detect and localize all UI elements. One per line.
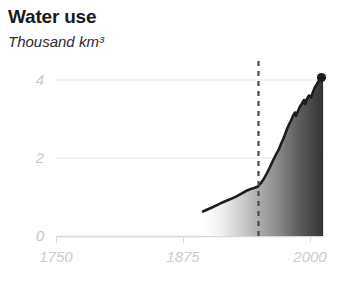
y-tick-label-0: 0: [20, 227, 44, 244]
water-use-chart-figure: Water use Thousand km³: [0, 0, 339, 290]
y-tick-label-2: 2: [20, 149, 44, 166]
x-tick-label-1875: 1875: [153, 248, 213, 265]
x-axis-ticks: [57, 237, 311, 243]
x-tick-label-2000: 2000: [280, 248, 339, 265]
plot-area: [0, 0, 339, 290]
endpoint-marker-dot: [317, 73, 326, 82]
y-tick-label-4: 4: [20, 71, 44, 88]
x-tick-label-1750: 1750: [26, 248, 86, 265]
